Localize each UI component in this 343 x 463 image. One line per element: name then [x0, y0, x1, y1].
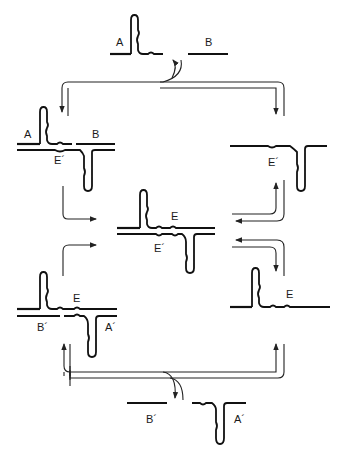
label-b-prime: B´: [37, 321, 48, 333]
lower-left-complex: E B´ A´: [17, 272, 117, 357]
top-substrates: A B: [110, 15, 228, 54]
label-b: B: [92, 128, 99, 140]
label-e-prime: E´: [54, 154, 65, 166]
label-e: E: [73, 292, 80, 304]
label-b: B: [205, 36, 212, 48]
left-arrows: [63, 186, 96, 276]
label-e: E: [171, 210, 178, 222]
center-duplex: E E´: [117, 190, 215, 273]
replication-diagram: A B A B E´ E´ E E´: [0, 0, 343, 463]
upper-left-complex: A B E´: [17, 107, 115, 191]
label-b-prime: B´: [146, 413, 157, 425]
bottom-substrates: B´ A´: [127, 403, 246, 444]
right-arrows: [232, 180, 284, 276]
label-e-prime: E´: [268, 156, 279, 168]
label-a-prime: A´: [105, 321, 116, 333]
label-a: A: [116, 36, 124, 48]
label-e-prime: E´: [154, 242, 165, 254]
lower-right-product: E: [230, 268, 330, 307]
bottom-split-arrow: [64, 344, 284, 400]
label-e: E: [286, 288, 293, 300]
top-split-arrow: [62, 60, 284, 116]
upper-right-template: E´: [230, 146, 327, 191]
label-a-prime: A´: [234, 413, 245, 425]
label-a: A: [24, 128, 32, 140]
